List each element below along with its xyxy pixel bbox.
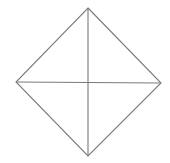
- diagram-canvas: [0, 0, 170, 163]
- horizontal-diagonal: [16, 82, 161, 83]
- diamond-diagram: [0, 0, 170, 163]
